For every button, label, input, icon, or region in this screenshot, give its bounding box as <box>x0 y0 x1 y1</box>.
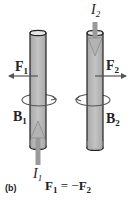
current-label-2: I2 <box>91 3 100 19</box>
wire-1 <box>9 30 56 165</box>
equation: F1 = −F2 <box>45 179 91 195</box>
force-label-1: F1 <box>15 60 28 76</box>
field-arrowhead-2 <box>76 96 81 101</box>
force-label-2: F2 <box>106 59 119 75</box>
wire-2 <box>76 22 126 151</box>
current-label-1: I1 <box>33 167 42 183</box>
diagram-canvas <box>0 0 133 205</box>
cylinder-top-1 <box>30 30 46 35</box>
panel-tag: (b) <box>5 184 17 193</box>
field-label-2: B2 <box>106 112 120 128</box>
current-arrow-shaft-1 <box>36 135 41 165</box>
current-arrow-shaft-2 <box>93 22 98 40</box>
field-label-1: B1 <box>13 110 27 126</box>
